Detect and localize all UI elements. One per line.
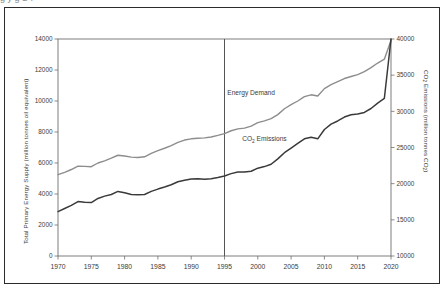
right-axis-title-c: ) <box>423 170 430 172</box>
x-axis-tick-label: 2005 <box>284 263 299 270</box>
right-axis-title: CO2 Emissions (million tonnes CO2) <box>422 70 430 172</box>
left-axis-tick-label: 0 <box>49 252 53 259</box>
right-axis-tick-label: 30000 <box>397 108 415 115</box>
left-axis-tick-label: 10000 <box>35 97 53 104</box>
annotation-co2-emissions: CO2 Emissions <box>242 135 287 143</box>
x-axis-tick-label: 1970 <box>50 263 65 270</box>
x-axis-tick-label: 1995 <box>217 263 232 270</box>
right-axis-tick-label: 35000 <box>397 71 415 78</box>
left-axis-tick-label: 6000 <box>38 159 53 166</box>
figure-container: 0200040006000800010000120001400010000150… <box>4 7 440 284</box>
top-cropped-text: g y g S I <box>0 0 33 3</box>
left-axis-tick-label: 12000 <box>35 66 53 73</box>
annotation-energy-demand: Energy Demand <box>227 89 275 97</box>
right-axis-tick-label: 15000 <box>397 216 415 223</box>
left-axis-tick-label: 2000 <box>38 221 53 228</box>
x-axis-tick-label: 1990 <box>184 263 199 270</box>
left-axis-title: Total Primary Energy Supply (million ton… <box>22 79 29 244</box>
right-axis-tick-label: 10000 <box>397 252 415 259</box>
left-axis-tick-label: 8000 <box>38 128 53 135</box>
left-axis-tick-label: 14000 <box>35 35 53 42</box>
top-cropped-text-sliver: g y g S I <box>0 0 445 6</box>
right-axis-title-b: Emissions (million tonnes CO <box>423 82 430 167</box>
right-axis-tick-label: 20000 <box>397 180 415 187</box>
x-axis-tick-label: 2000 <box>250 263 265 270</box>
x-axis-tick-label: 2020 <box>383 263 398 270</box>
x-axis-tick-label: 1985 <box>150 263 165 270</box>
x-axis-tick-label: 2010 <box>317 263 332 270</box>
chart-area: 0200040006000800010000120001400010000150… <box>5 8 441 285</box>
x-axis-tick-label: 1980 <box>117 263 132 270</box>
right-axis-tick-label: 40000 <box>397 35 415 42</box>
x-axis-tick-label: 2015 <box>350 263 365 270</box>
chart-svg: 0200040006000800010000120001400010000150… <box>5 8 441 285</box>
annotation-co2-text: CO <box>242 135 252 142</box>
annotation-co2-suffix: Emissions <box>255 135 288 142</box>
x-axis-tick-label: 1975 <box>84 263 99 270</box>
right-axis-tick-label: 25000 <box>397 144 415 151</box>
left-axis-tick-label: 4000 <box>38 190 53 197</box>
